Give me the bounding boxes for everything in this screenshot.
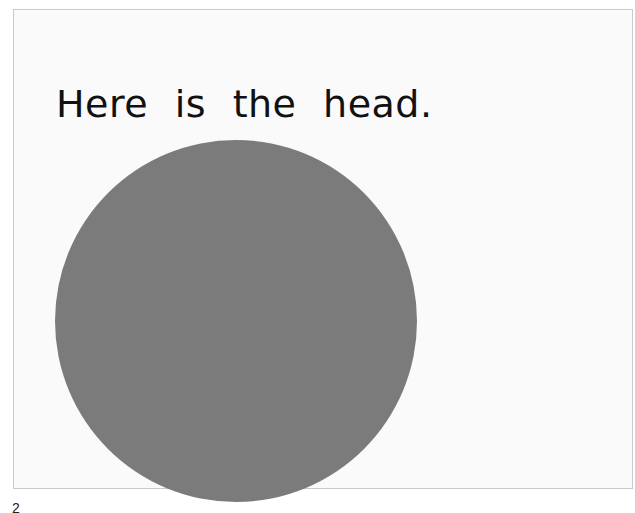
page-caption: Here is the head. (56, 82, 433, 126)
page-number: 2 (12, 500, 20, 513)
head-circle-illustration (55, 140, 417, 502)
